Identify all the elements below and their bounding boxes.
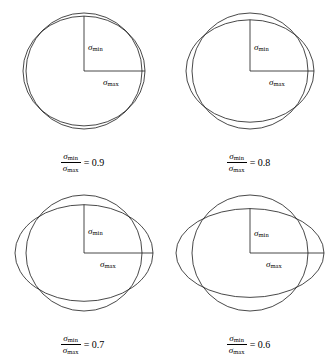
fraction-numerator: σmin [61, 151, 81, 163]
diagram-svg-0-9 [0, 0, 165, 150]
panel-plot-0-9: σmin σmax [0, 0, 165, 150]
fraction-denominator: σmax [61, 345, 81, 356]
ratio-fraction: σmin σmax [227, 333, 247, 356]
sigma-min-label: σmin [88, 42, 103, 52]
ratio-value: = 0.9 [84, 158, 105, 168]
caption-ratio-0-7: σmin σmax = 0.7 [0, 334, 165, 357]
caption-ratio-0-9: σmin σmax = 0.9 [0, 152, 165, 175]
ratio-fraction: σmin σmax [61, 151, 81, 174]
ratio-fraction: σmin σmax [61, 333, 81, 356]
fraction-denominator: σmax [227, 163, 247, 174]
sigma-min-label: σmin [88, 226, 103, 236]
figure-root: σmin σmax σmin σmax = 0.9 σmin σmax [0, 0, 331, 363]
ratio-value: = 0.7 [84, 340, 105, 350]
fraction-denominator: σmax [61, 163, 81, 174]
panel-plot-0-6: σmin σmax [166, 182, 331, 332]
sigma-max-label: σmax [103, 77, 119, 87]
panel-plot-0-8: σmin σmax [166, 0, 331, 150]
fraction-numerator: σmin [227, 333, 247, 345]
panel-ratio-0-8: σmin σmax σmin σmax = 0.8 [166, 0, 331, 181]
sigma-min-label: σmin [254, 228, 269, 238]
panel-ratio-0-7: σmin σmax σmin σmax = 0.7 [0, 182, 165, 363]
ratio-value: = 0.6 [250, 340, 271, 350]
sigma-max-label: σmax [100, 259, 116, 269]
sigma-max-label: σmax [269, 77, 285, 87]
ratio-value: = 0.8 [250, 158, 271, 168]
fraction-numerator: σmin [61, 333, 81, 345]
diagram-svg-0-8 [166, 0, 331, 150]
panel-ratio-0-6: σmin σmax σmin σmax = 0.6 [166, 182, 331, 363]
fraction-denominator: σmax [227, 345, 247, 356]
panel-plot-0-7: σmin σmax [0, 182, 165, 332]
caption-ratio-0-6: σmin σmax = 0.6 [166, 334, 331, 357]
diagram-svg-0-6 [166, 182, 331, 332]
panel-ratio-0-9: σmin σmax σmin σmax = 0.9 [0, 0, 165, 181]
sigma-max-label: σmax [266, 259, 282, 269]
caption-ratio-0-8: σmin σmax = 0.8 [166, 152, 331, 175]
fraction-numerator: σmin [227, 151, 247, 163]
diagram-svg-0-7 [0, 182, 165, 332]
sigma-min-label: σmin [254, 42, 269, 52]
ratio-fraction: σmin σmax [227, 151, 247, 174]
